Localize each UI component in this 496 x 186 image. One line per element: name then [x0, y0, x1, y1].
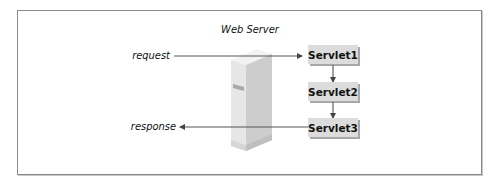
web-server-label: Web Server	[221, 23, 280, 36]
response-label: response	[131, 120, 176, 133]
servlet-2-label: Servlet2	[308, 86, 358, 98]
servlet-box-3: Servlet3	[308, 118, 360, 139]
request-label: request	[132, 49, 171, 62]
server-front	[231, 60, 246, 151]
servlet-box-2: Servlet2	[308, 82, 360, 103]
web-server-icon	[231, 49, 272, 151]
servlet-diagram: Web Server request response Servlet1 Ser…	[0, 0, 496, 186]
servlet-3-label: Servlet3	[308, 122, 358, 134]
servlet-1-label: Servlet1	[308, 49, 358, 61]
servlet-box-1: Servlet1	[308, 45, 360, 66]
